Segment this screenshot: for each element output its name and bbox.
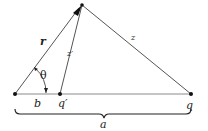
z-label: z [130, 33, 136, 42]
theta-label: θ [40, 69, 47, 82]
q-label: q [186, 99, 193, 112]
z-prime-label: z′ [66, 49, 73, 58]
q-prime-point [58, 92, 62, 96]
b-label: b [34, 97, 41, 110]
q-point [189, 92, 193, 96]
z-line [82, 5, 191, 94]
origin-point [13, 92, 17, 96]
r-label: r [40, 35, 47, 48]
a-brace [15, 109, 191, 118]
theta-arrowhead-icon [44, 88, 48, 93]
a-label: a [100, 118, 107, 131]
apex-point [80, 3, 84, 7]
q-prime-label: q′ [58, 97, 68, 110]
charge-image-diagram: r θ z′ z b q′ q a [0, 0, 208, 131]
